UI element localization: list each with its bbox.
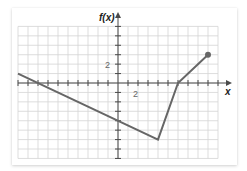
x-tick-label-2: 2 (133, 89, 138, 99)
endpoint-dot (205, 52, 211, 58)
y-axis-label: f(x) (99, 12, 115, 23)
x-axis-label: x (224, 86, 231, 97)
function-graph: f(x) x 2 2 (0, 0, 247, 171)
function-line (18, 55, 208, 140)
y-tick-label-2: 2 (105, 60, 110, 70)
axes (18, 12, 232, 158)
